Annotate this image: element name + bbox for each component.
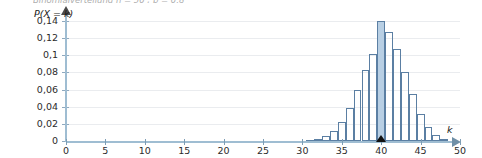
gridline bbox=[66, 38, 460, 39]
y-axis-tick-label: 0,1 bbox=[0, 49, 58, 60]
histogram-bar bbox=[417, 114, 425, 141]
y-axis-tick-label: 0,02 bbox=[0, 118, 58, 129]
y-axis-tick-label: 0,12 bbox=[0, 32, 58, 43]
plot-area: 00,020,040,060,080,10,120,14 05101520253… bbox=[0, 0, 482, 158]
y-axis-tick-label: 0 bbox=[0, 135, 58, 146]
x-axis-tick-label: 35 bbox=[336, 145, 348, 156]
x-axis-tick-label: 5 bbox=[102, 145, 108, 156]
x-axis-tick-label: 0 bbox=[63, 145, 69, 156]
histogram-bar bbox=[354, 90, 362, 141]
x-axis-tick-label: 30 bbox=[296, 145, 308, 156]
x-axis-tick-label: 50 bbox=[454, 145, 466, 156]
x-axis-tick-label: 20 bbox=[218, 145, 230, 156]
histogram-bar bbox=[377, 21, 385, 141]
histogram-bar bbox=[401, 72, 409, 141]
gridline bbox=[66, 55, 460, 56]
x-axis-line bbox=[66, 141, 455, 143]
x-axis-title: k bbox=[447, 124, 453, 135]
histogram-bar bbox=[409, 94, 417, 141]
histogram-bar bbox=[385, 32, 393, 141]
x-axis-tick-label: 25 bbox=[257, 145, 269, 156]
y-axis-tick-label: 0,08 bbox=[0, 66, 58, 77]
y-axis-tick-label: 0,06 bbox=[0, 84, 58, 95]
y-axis-tick-label: 0,04 bbox=[0, 101, 58, 112]
x-axis-tick-label: 15 bbox=[178, 145, 190, 156]
histogram-bar bbox=[362, 70, 370, 141]
x-axis-tick-label: 10 bbox=[139, 145, 151, 156]
histogram-bar bbox=[425, 127, 433, 141]
x-axis-tick-label: 40 bbox=[375, 145, 387, 156]
histogram-bar bbox=[369, 54, 377, 141]
chart-canvas: Binomialverteilung n = 50 ; p = 0,8 00,0… bbox=[0, 0, 482, 158]
histogram-bar bbox=[330, 131, 338, 141]
gridline bbox=[66, 21, 460, 22]
value-marker-icon bbox=[376, 135, 386, 142]
histogram-bar bbox=[346, 108, 354, 141]
x-axis-tick-label: 45 bbox=[415, 145, 427, 156]
y-axis-line bbox=[65, 14, 67, 142]
histogram-bar bbox=[393, 49, 401, 141]
y-axis-title: P(X = k) bbox=[34, 8, 73, 19]
